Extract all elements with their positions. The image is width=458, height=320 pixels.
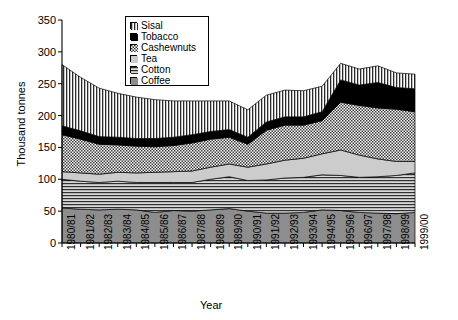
x-tick-label: 1989/90 [233,214,244,250]
x-axis-tick-labels: 1980/811981/821982/831983/841984/851985/… [0,0,458,320]
legend-item-sisal: Sisal [130,20,205,31]
legend-label: Cashewnuts [141,43,196,53]
x-tick-label: 1981/82 [85,214,96,250]
legend-item-coffee: Coffee [130,75,205,86]
x-axis-title: Year [200,299,222,311]
x-tick-label: 1996/97 [363,214,374,250]
legend-swatch-cotton-icon [130,66,137,73]
x-tick-label: 1991/92 [270,214,281,250]
x-tick-label: 1993/94 [308,214,319,250]
x-tick-label: 1990/91 [252,214,263,250]
x-tick-label: 1994/95 [326,214,337,250]
x-tick-label: 1995/96 [345,214,356,250]
y-axis-title: Thousand tonnes [15,59,27,189]
legend-label: Sisal [141,21,163,31]
x-tick-label: 1988/89 [215,214,226,250]
x-tick-label: 1998/99 [400,214,411,250]
x-tick-label: 1985/86 [159,214,170,250]
legend-label: Coffee [141,76,170,86]
x-tick-label: 1992/93 [289,214,300,250]
legend-swatch-tobacco-icon [130,33,137,40]
legend-swatch-tea-icon [130,55,137,62]
legend-label: Cotton [141,65,170,75]
legend-item-cotton: Cotton [130,64,205,75]
legend-swatch-cashewnuts-icon [130,44,137,51]
x-tick-label: 1986/87 [177,214,188,250]
x-tick-label: 1997/98 [382,214,393,250]
x-tick-label: 1984/85 [140,214,151,250]
legend-swatch-sisal-icon [130,22,137,29]
legend-swatch-coffee-icon [130,77,137,84]
stacked-area-chart: 050100150200250300350 1980/811981/821982… [0,0,458,320]
x-tick-label: 1980/81 [66,214,77,250]
x-tick-label: 1999/00 [419,214,430,250]
chart-legend: SisalTobaccoCashewnutsTeaCottonCoffee [125,16,209,86]
x-tick-label: 1982/83 [103,214,114,250]
x-tick-label: 1983/84 [122,214,133,250]
x-tick-label: 1987/88 [196,214,207,250]
legend-item-tea: Tea [130,53,205,64]
legend-label: Tobacco [141,32,178,42]
legend-label: Tea [141,54,157,64]
legend-item-tobacco: Tobacco [130,31,205,42]
legend-item-cashewnuts: Cashewnuts [130,42,205,53]
